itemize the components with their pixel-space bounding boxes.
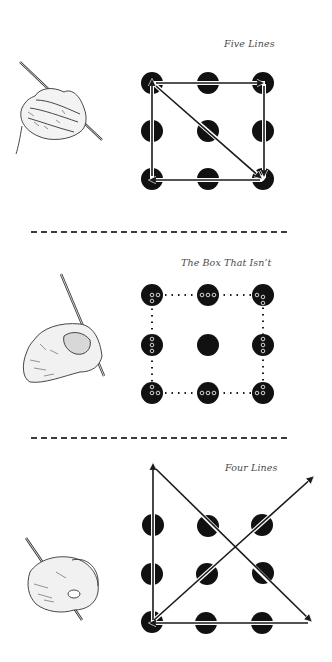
solution-lines-five [150,80,265,180]
dot-grid-box-that-isnt [141,284,274,404]
solution-lines-four [150,464,313,623]
hand-holding-pencil-icon [16,62,102,154]
section-divider [31,231,287,233]
section-divider [31,437,287,439]
puzzle-diagrams [0,0,332,662]
panel-title-box-that-isnt: The Box That Isn’t [181,257,272,268]
panel-title-four-lines: Four Lines [225,462,277,473]
hand-holding-pencil-icon [23,274,104,382]
hand-holding-pencil-icon [26,538,98,620]
